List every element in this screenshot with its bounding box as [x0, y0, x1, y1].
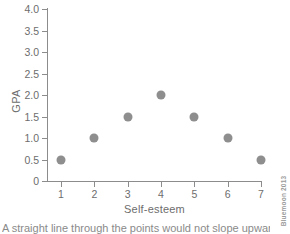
y-tick — [42, 95, 47, 96]
x-tick-label: 2 — [91, 189, 97, 200]
data-point — [57, 155, 66, 164]
data-point — [123, 112, 132, 121]
scatter-plot-figure: 00.51.01.52.02.53.03.54.0 1234567 GPA Se… — [0, 0, 290, 234]
x-tick-label: 4 — [158, 189, 164, 200]
data-point — [157, 91, 166, 100]
y-tick-label: 1.0 — [24, 133, 39, 144]
y-axis-line — [47, 8, 48, 182]
y-tick — [42, 181, 47, 182]
y-tick — [42, 160, 47, 161]
y-tick — [42, 117, 47, 118]
x-axis-line — [47, 181, 262, 182]
y-tick-label: 3.0 — [24, 47, 39, 58]
data-point — [190, 112, 199, 121]
x-tick — [94, 182, 95, 187]
y-tick-label: 1.5 — [24, 111, 39, 122]
y-tick — [42, 74, 47, 75]
x-tick-label: 7 — [258, 189, 264, 200]
x-tick — [161, 182, 162, 187]
y-tick — [42, 138, 47, 139]
x-tick — [261, 182, 262, 187]
data-point — [223, 134, 232, 143]
y-axis-title: GPA — [10, 71, 22, 131]
credit-watermark: Bluemoon 2013 — [276, 172, 290, 230]
y-tick — [42, 9, 47, 10]
y-tick-label: 3.5 — [24, 25, 39, 36]
x-tick — [194, 182, 195, 187]
y-tick — [42, 31, 47, 32]
y-tick-label: 0.5 — [24, 154, 39, 165]
x-axis-title: Self-esteem — [47, 203, 262, 215]
x-tick — [128, 182, 129, 187]
y-tick — [42, 52, 47, 53]
x-tick-label: 3 — [125, 189, 131, 200]
data-point — [90, 134, 99, 143]
x-tick — [228, 182, 229, 187]
data-point — [257, 155, 266, 164]
y-tick-label: 2.5 — [24, 68, 39, 79]
x-tick — [61, 182, 62, 187]
figure-caption: A straight line through the points would… — [2, 222, 270, 234]
x-tick-label: 5 — [191, 189, 197, 200]
x-tick-label: 6 — [225, 189, 231, 200]
y-tick-label: 2.0 — [24, 90, 39, 101]
y-tick-label: 4.0 — [24, 4, 39, 15]
y-tick-label: 0 — [33, 176, 39, 187]
plot-area: 00.51.01.52.02.53.03.54.0 1234567 GPA Se… — [0, 0, 290, 234]
credit-text: Bluemoon 2013 — [280, 176, 287, 227]
x-tick-label: 1 — [58, 189, 64, 200]
